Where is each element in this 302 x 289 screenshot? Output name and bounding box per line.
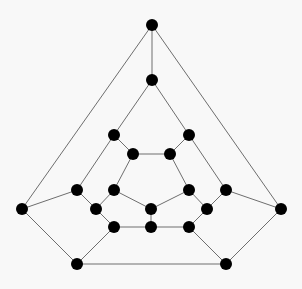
graph-edge — [189, 227, 226, 264]
graph-node — [127, 148, 139, 160]
graph-node — [220, 258, 232, 270]
graph-edge — [189, 135, 226, 190]
graph-node — [108, 221, 120, 233]
graph-node — [164, 148, 176, 160]
graph-edge — [170, 154, 189, 190]
graph-edge — [22, 209, 77, 264]
graph-edge — [114, 190, 151, 209]
graph-edge — [152, 80, 189, 135]
graph-node — [71, 184, 83, 196]
graph-node — [146, 74, 158, 86]
graph-node — [183, 221, 195, 233]
graph-node — [145, 221, 157, 233]
graph-node — [183, 129, 195, 141]
graph-node — [220, 184, 232, 196]
graph-edge — [226, 209, 281, 264]
graph-node — [146, 19, 158, 31]
graph-edge — [152, 25, 281, 209]
graph-edge — [114, 154, 133, 190]
graph-node — [183, 184, 195, 196]
graph-edge — [77, 135, 114, 190]
graph-edge — [77, 227, 114, 264]
graph-node — [201, 203, 213, 215]
graph-node — [275, 203, 287, 215]
dodecahedral-graph-diagram — [0, 0, 302, 289]
graph-edge — [22, 190, 77, 209]
graph-node — [90, 203, 102, 215]
graph-node — [108, 184, 120, 196]
graph-edge — [226, 190, 281, 209]
graph-node — [71, 258, 83, 270]
graph-edge — [22, 25, 152, 209]
graph-edge — [151, 190, 189, 209]
graph-node — [145, 203, 157, 215]
graph-node — [108, 129, 120, 141]
graph-edge — [114, 80, 152, 135]
graph-node — [16, 203, 28, 215]
